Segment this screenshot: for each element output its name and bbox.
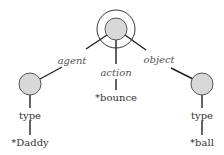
edge-object-upper <box>125 35 146 50</box>
value-daddy: *Daddy <box>11 137 49 148</box>
value-bounce: *bounce <box>95 92 137 103</box>
left-type-label: type <box>19 110 41 121</box>
edges <box>30 35 202 135</box>
edge-agent-upper <box>86 35 107 49</box>
root-node <box>105 18 127 40</box>
value-ball: *ball <box>190 137 214 148</box>
agent-node <box>19 73 41 95</box>
edge-agent-lower <box>40 67 62 79</box>
semantic-network-diagram: agent action object *bounce type *Daddy … <box>0 0 224 155</box>
right-type-label: type <box>191 110 213 121</box>
relation-label-object: object <box>143 54 175 65</box>
edge-object-lower <box>171 68 193 79</box>
relation-label-action: action <box>100 67 131 78</box>
relation-label-agent: agent <box>58 55 88 66</box>
object-node <box>191 73 213 95</box>
